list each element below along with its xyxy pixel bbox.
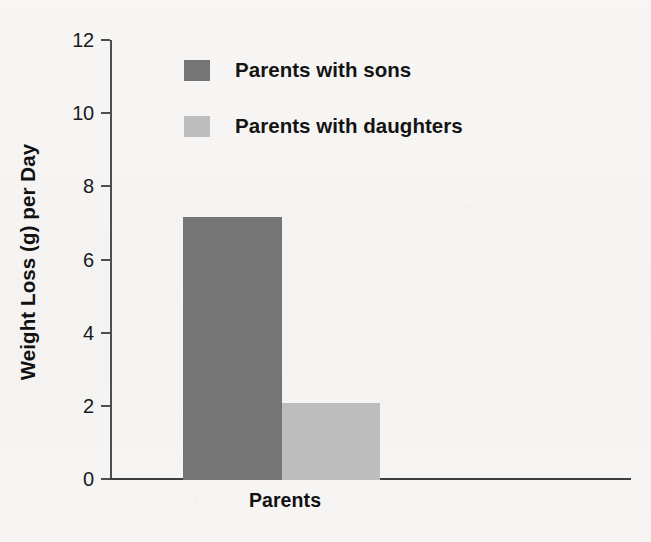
bar-parents-with-daughters xyxy=(282,403,380,480)
y-axis-tick-mark xyxy=(101,478,110,480)
y-axis-title: Weight Loss (g) per Day xyxy=(16,112,40,412)
y-axis-tick-mark xyxy=(101,259,110,261)
bar-parents-with-sons xyxy=(183,217,282,480)
y-axis-tick-label-text: 10 xyxy=(52,101,94,125)
bar-chart: Weight Loss (g) per Day 121086420 Parent… xyxy=(0,0,651,542)
y-axis-tick-label-text: 12 xyxy=(52,28,94,52)
y-axis-tick-mark xyxy=(101,405,110,407)
y-axis-tick-label-text: 2 xyxy=(52,394,94,418)
legend-item-daughters: Parents with daughters xyxy=(184,110,463,142)
y-axis-tick-label-text: 0 xyxy=(52,467,94,491)
legend-label-daughters: Parents with daughters xyxy=(235,114,463,138)
y-axis-tick-label: 2 xyxy=(52,394,94,418)
y-axis-tick-label: 10 xyxy=(52,101,94,125)
y-axis-tick-mark xyxy=(101,332,110,334)
y-axis-tick-label-text: 8 xyxy=(52,174,94,198)
legend-swatch-sons-icon xyxy=(184,60,210,81)
legend-swatch-daughters-icon xyxy=(184,116,210,137)
y-axis-tick-mark xyxy=(101,185,110,187)
y-axis-tick-label-text: 6 xyxy=(52,248,94,272)
legend-label-sons: Parents with sons xyxy=(235,58,411,82)
y-axis-tick-label: 12 xyxy=(52,28,94,52)
y-axis-tick-label: 8 xyxy=(52,174,94,198)
y-axis-tick-mark xyxy=(101,112,110,114)
y-axis-line xyxy=(110,40,112,480)
x-axis-title: Parents xyxy=(186,489,384,512)
y-axis-tick-label: 4 xyxy=(52,321,94,345)
legend-item-sons: Parents with sons xyxy=(184,54,463,86)
y-axis-tick-label-text: 4 xyxy=(52,321,94,345)
y-axis-tick-mark xyxy=(101,39,110,41)
y-axis-tick-label: 0 xyxy=(52,467,94,491)
chart-legend: Parents with sons Parents with daughters xyxy=(184,54,463,166)
y-axis-tick-label: 6 xyxy=(52,248,94,272)
